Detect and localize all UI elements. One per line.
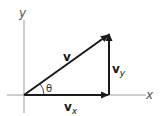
vector-diagram: x y θ v vx vy bbox=[0, 0, 160, 116]
vector-vx-label: vx bbox=[64, 100, 78, 116]
angle-arc bbox=[40, 83, 44, 95]
y-axis-label: y bbox=[18, 6, 27, 20]
vector-vx-main: v bbox=[64, 100, 72, 114]
vector-vx-subscript: x bbox=[71, 106, 78, 116]
angle-label: θ bbox=[46, 83, 52, 94]
vector-vy-main: v bbox=[112, 62, 120, 76]
vector-vy-label: vy bbox=[112, 62, 126, 78]
x-axis-label: x bbox=[145, 88, 154, 102]
vector-v bbox=[24, 35, 108, 95]
vector-vy-subscript: y bbox=[119, 68, 126, 78]
vector-v-label: v bbox=[63, 50, 71, 64]
